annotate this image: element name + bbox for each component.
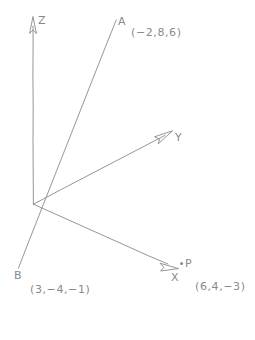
y-axis-line	[33, 135, 165, 204]
y-axis-arrowhead	[155, 131, 173, 144]
y-axis	[33, 131, 172, 204]
x-axis-label: X	[171, 272, 179, 283]
point-a-coordinates: (−2,8,6)	[131, 27, 182, 38]
point-a-label: A	[118, 16, 126, 27]
point-p-label: P	[185, 258, 192, 269]
x-axis	[33, 204, 178, 271]
point-p-coordinates: (6,4,−3)	[195, 281, 246, 292]
coordinate-diagram: Z Y X A (−2,8,6) B (3,−4,−1) P (6,4,−3)	[0, 0, 255, 340]
z-axis	[30, 17, 37, 205]
z-axis-line	[33, 26, 34, 204]
x-axis-arrowhead	[160, 263, 179, 271]
point-b-label: B	[14, 270, 22, 281]
point-p-marker	[180, 262, 183, 265]
y-axis-label: Y	[175, 132, 182, 143]
x-axis-line	[33, 204, 168, 264]
z-axis-label: Z	[38, 15, 46, 26]
point-b-coordinates: (3,−4,−1)	[30, 284, 90, 295]
